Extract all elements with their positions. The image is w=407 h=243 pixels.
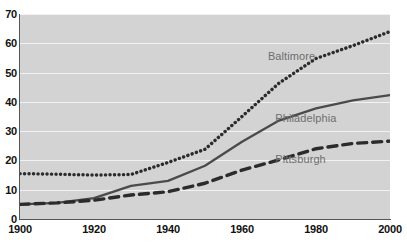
x-axis-tick-label: 1920 bbox=[72, 224, 116, 235]
x-axis-tick-label: 1960 bbox=[220, 224, 264, 235]
y-axis-tick-label: 70 bbox=[0, 9, 17, 20]
y-axis-tick-label: 30 bbox=[0, 126, 17, 137]
y-axis-line bbox=[19, 14, 20, 220]
y-axis-tick-label: 60 bbox=[0, 38, 17, 49]
x-axis-line bbox=[19, 219, 391, 220]
y-axis-tick-label: 40 bbox=[0, 97, 17, 108]
series-label-pittsburgh: Pittsburgh bbox=[275, 154, 326, 165]
x-axis-tick-label: 1940 bbox=[146, 224, 190, 235]
y-axis-tick-label: 50 bbox=[0, 68, 17, 79]
x-axis-tick-label: 1900 bbox=[0, 224, 42, 235]
y-axis-tick-label: 20 bbox=[0, 155, 17, 166]
x-axis-tick-label: 1980 bbox=[294, 224, 338, 235]
y-axis-tick-label: 10 bbox=[0, 185, 17, 196]
series-label-baltimore: Baltimore bbox=[268, 51, 315, 62]
y-axis-tick-labels: 010203040506070 bbox=[0, 0, 17, 243]
x-axis-tick-label: 2000 bbox=[368, 224, 407, 235]
series-label-philadelphia: Philadelphia bbox=[275, 113, 336, 124]
